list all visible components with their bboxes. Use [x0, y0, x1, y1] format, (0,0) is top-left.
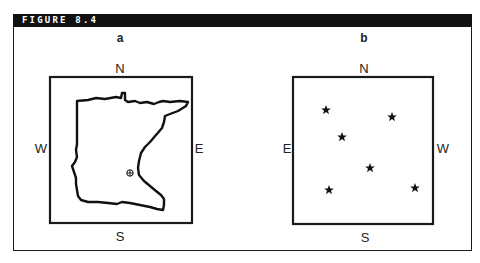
panel-b-label: b	[360, 32, 367, 45]
panel-b-left-label: E	[283, 142, 292, 155]
panel-a-label: a	[117, 32, 124, 45]
panel-a-south-label: S	[116, 230, 125, 243]
circled-plus-marker-icon	[127, 170, 133, 176]
star-icon	[365, 163, 375, 172]
star-icon	[387, 112, 397, 121]
panel-a	[50, 77, 192, 223]
panel-b-north-label: N	[359, 62, 368, 75]
panel-b-box	[293, 77, 433, 224]
panel-a-north-label: N	[115, 62, 124, 75]
star-icon	[321, 105, 331, 114]
panel-a-east-label: E	[195, 142, 204, 155]
star-icon	[324, 185, 334, 194]
panel-b-right-label: W	[437, 142, 449, 155]
figure-canvas	[0, 0, 480, 263]
panel-a-west-label: W	[35, 142, 47, 155]
star-icon	[337, 132, 347, 141]
panel-b	[293, 77, 433, 224]
star-icon	[410, 183, 420, 192]
state-outline-map	[72, 93, 188, 210]
panel-b-south-label: S	[361, 231, 370, 244]
